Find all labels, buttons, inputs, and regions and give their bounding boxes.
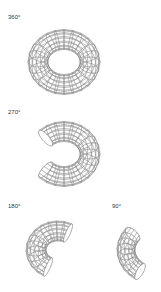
torus-90-figure bbox=[117, 227, 145, 279]
torus-270-figure bbox=[39, 121, 100, 186]
torus-diagram bbox=[0, 0, 161, 292]
torus-180-figure bbox=[26, 221, 72, 276]
torus-360-figure bbox=[28, 29, 100, 94]
